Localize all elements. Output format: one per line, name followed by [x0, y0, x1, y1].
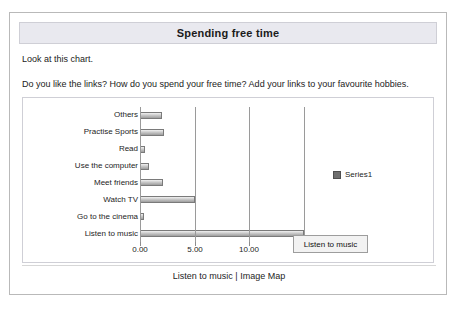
chart-tooltip: Listen to music [293, 235, 368, 253]
gridline [304, 107, 305, 242]
status-divider [22, 265, 436, 266]
bar[interactable] [140, 112, 162, 119]
content-panel: Spending free time Look at this chart. D… [9, 12, 447, 295]
chart-container[interactable]: OthersPractise SportsReadUse the compute… [22, 97, 434, 263]
bar[interactable] [140, 230, 304, 237]
intro-line-2: Do you like the links? How do you spend … [22, 79, 440, 89]
category-label[interactable]: Listen to music [85, 229, 138, 238]
legend-swatch-series1 [333, 171, 341, 179]
bar-series[interactable] [140, 107, 305, 242]
category-label[interactable]: Meet friends [94, 178, 138, 187]
page-title: Spending free time [177, 27, 280, 39]
bar[interactable] [140, 163, 149, 170]
category-label[interactable]: Others [114, 110, 138, 119]
gridline [249, 107, 250, 242]
legend-label-series1: Series1 [345, 170, 372, 179]
value-axis-tick-label: 10.00 [239, 245, 259, 254]
category-label[interactable]: Practise Sports [84, 127, 138, 136]
intro-line-1: Look at this chart. [22, 54, 436, 64]
category-label[interactable]: Go to the cinema [77, 212, 138, 221]
category-axis-labels: OthersPractise SportsReadUse the compute… [37, 107, 138, 242]
value-axis-tick-label: 5.00 [187, 245, 203, 254]
plot-area[interactable] [140, 107, 305, 242]
category-label[interactable]: Use the computer [75, 161, 138, 170]
category-label[interactable]: Watch TV [103, 195, 138, 204]
category-label[interactable]: Read [119, 144, 138, 153]
gridline [140, 107, 141, 242]
chart-legend: Series1 [333, 170, 372, 179]
status-text: Listen to music | Image Map [22, 271, 436, 281]
gridline [195, 107, 196, 242]
bar[interactable] [140, 196, 195, 203]
bar[interactable] [140, 129, 164, 136]
screenshot-root: Spending free time Look at this chart. D… [0, 0, 462, 309]
value-axis-tick-label: 0.00 [132, 245, 148, 254]
chart-title-bar: Spending free time [19, 22, 437, 44]
bar[interactable] [140, 179, 163, 186]
